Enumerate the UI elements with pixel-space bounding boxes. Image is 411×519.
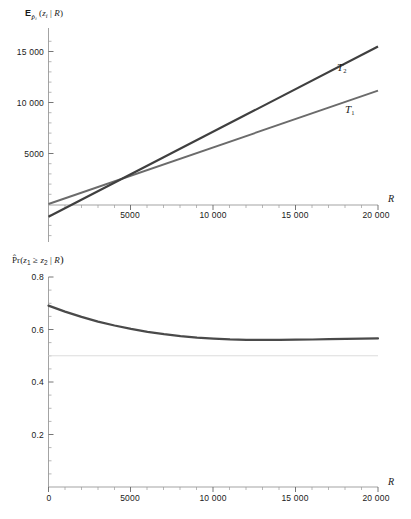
- bottom-ytick-label-02: 0.2: [0, 430, 44, 440]
- series-line-T1: [49, 91, 379, 204]
- top-xtick-label-10000: 10 000: [183, 210, 243, 220]
- top-ytick-label-5000: 5000: [0, 149, 44, 159]
- top-chart-svg: [0, 0, 411, 245]
- bottom-x-axis-name: R: [388, 476, 394, 487]
- bottom-xtick-label-10000: 10 000: [183, 493, 243, 503]
- bottom-ytick-label-06: 0.6: [0, 325, 44, 335]
- bottom-xtick-label-5000: 5000: [100, 493, 160, 503]
- top-ytick-label-10000: 10 000: [0, 98, 44, 108]
- top-x-axis-name: R: [388, 193, 394, 204]
- top-y-major-ticks: [49, 52, 54, 154]
- top-y-axis-label: EP̂i (zi | R): [25, 8, 63, 19]
- top-x-major-ticks: [131, 205, 379, 210]
- bottom-xtick-label-20000: 20 000: [346, 493, 406, 503]
- series-curve-pr-hat: [49, 306, 379, 340]
- top-xtick-label-20000: 20 000: [346, 210, 406, 220]
- bottom-ytick-label-08: 0.8: [0, 272, 44, 282]
- chart-panel-top: EP̂i (zi | R): [0, 0, 411, 245]
- bottom-y-axis-label: P̂r(z1 ≥ z2 | R): [12, 253, 64, 266]
- bottom-xtick-label-15000: 15 000: [265, 493, 325, 503]
- bottom-chart-svg: [0, 268, 411, 518]
- series-annotation-T2: T2: [337, 61, 346, 74]
- series-line-T2: [49, 47, 379, 217]
- top-ytick-label-15000: 15 000: [0, 47, 44, 57]
- bottom-xtick-label-0: 0: [19, 493, 79, 503]
- series-annotation-T1: T1: [345, 103, 354, 116]
- bottom-ytick-label-04: 0.4: [0, 377, 44, 387]
- figure-container: EP̂i (zi | R): [0, 0, 411, 519]
- top-xtick-label-15000: 15 000: [265, 210, 325, 220]
- top-xtick-label-5000: 5000: [100, 210, 160, 220]
